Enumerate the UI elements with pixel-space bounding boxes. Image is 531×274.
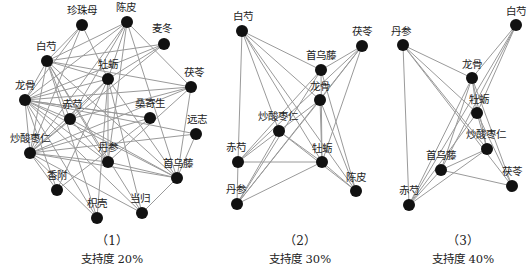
node-dot xyxy=(51,184,63,196)
edge xyxy=(472,25,516,78)
node-label: 桑寄生 xyxy=(135,97,165,109)
label-layer: 白芍丹参龙骨牡蛎炒酸枣仁首乌藤茯苓赤芍 xyxy=(391,5,526,196)
panel-caption-index: （3） xyxy=(447,234,479,248)
node-dot xyxy=(236,25,248,37)
node-label: 牡蛎 xyxy=(469,93,490,105)
node-dot xyxy=(471,107,483,119)
edge-layer xyxy=(403,25,516,205)
edge xyxy=(30,153,108,162)
panel-caption-index: （2） xyxy=(284,234,316,248)
node-dot xyxy=(171,172,183,184)
node-label: 枳壳 xyxy=(87,197,108,209)
node-label: 远志 xyxy=(187,113,207,125)
node-label: 首乌藤 xyxy=(306,49,337,61)
node-label: 赤芍 xyxy=(62,98,82,110)
node-label: 赤芍 xyxy=(226,141,246,153)
node-dot xyxy=(466,72,478,84)
node-label: 龙骨 xyxy=(15,79,35,91)
network-panel-support-20: 珍珠母陈皮麦冬白芍牡蛎茯苓龙骨赤芍桑寄生远志炒酸枣仁丹参首乌藤香附枳壳当归 （1… xyxy=(10,1,207,266)
node-dot xyxy=(91,212,103,224)
node-dot xyxy=(506,180,518,192)
node-label: 首乌藤 xyxy=(426,149,457,161)
node-label: 当归 xyxy=(130,192,150,204)
network-panel-support-30: 白芍茯苓首乌藤龙骨炒酸枣仁赤芍牡蛎丹参陈皮 （2） 支持度 30% xyxy=(226,10,373,266)
panel-caption-support: 支持度 20% xyxy=(81,252,143,266)
node-label: 珍珠母 xyxy=(67,4,97,16)
panel-caption-support: 支持度 30% xyxy=(269,252,331,266)
node-label: 龙骨 xyxy=(310,80,330,92)
node-label: 白芍 xyxy=(36,40,56,52)
node-label: 牡蛎 xyxy=(98,58,119,70)
node-label: 陈皮 xyxy=(116,1,137,13)
edge xyxy=(30,153,142,213)
node-label: 赤芍 xyxy=(399,184,419,196)
panel-caption-index: （1） xyxy=(96,234,128,248)
node-dot xyxy=(397,39,409,51)
node-dot xyxy=(102,73,114,85)
node-dot xyxy=(481,143,493,155)
node-label: 茯苓 xyxy=(352,25,373,37)
node-label: 茯苓 xyxy=(502,165,523,177)
node-label: 丹参 xyxy=(226,183,247,195)
node-dot xyxy=(144,112,156,124)
node-label: 白芍 xyxy=(233,10,253,22)
node-label: 炒酸枣仁 xyxy=(258,110,298,122)
node-dot xyxy=(273,125,285,137)
network-diagram-canvas: 珍珠母陈皮麦冬白芍牡蛎茯苓龙骨赤芍桑寄生远志炒酸枣仁丹参首乌藤香附枳壳当归 （1… xyxy=(0,0,531,274)
node-dot xyxy=(510,19,522,31)
node-dot xyxy=(315,64,327,76)
node-dot xyxy=(64,113,76,125)
edge xyxy=(177,134,196,178)
node-label: 丹参 xyxy=(391,25,412,37)
node-dot xyxy=(41,55,53,67)
node-dot xyxy=(316,156,328,168)
node-dot xyxy=(231,198,243,210)
node-dot xyxy=(24,147,36,159)
node-dot xyxy=(121,16,133,28)
node-dot xyxy=(435,164,447,176)
node-label: 丹参 xyxy=(98,141,119,153)
node-dot xyxy=(190,128,202,140)
node-label: 炒酸枣仁 xyxy=(466,128,506,140)
panel-caption-support: 支持度 40% xyxy=(432,252,494,266)
edge xyxy=(409,25,516,205)
node-dot xyxy=(136,207,148,219)
node-dot xyxy=(19,94,31,106)
node-label: 香附 xyxy=(47,169,68,181)
node-label: 茯苓 xyxy=(184,66,205,78)
node-dot xyxy=(350,185,362,197)
edge xyxy=(403,45,409,205)
edge-layer xyxy=(237,31,362,204)
label-layer: 白芍茯苓首乌藤龙骨炒酸枣仁赤芍牡蛎丹参陈皮 xyxy=(226,10,373,195)
node-label: 首乌藤 xyxy=(163,157,194,169)
node-dot xyxy=(403,199,415,211)
node-dot xyxy=(102,156,114,168)
node-dot xyxy=(314,94,326,106)
node-dot xyxy=(76,19,88,31)
node-dot xyxy=(158,38,170,50)
edge xyxy=(403,45,477,113)
node-dot xyxy=(356,40,368,52)
node-label: 龙骨 xyxy=(462,58,482,70)
node-label: 陈皮 xyxy=(346,171,367,183)
node-label: 白芍 xyxy=(506,5,526,17)
node-dot xyxy=(185,81,197,93)
edge xyxy=(57,118,150,190)
node-label: 牡蛎 xyxy=(312,142,333,154)
edge xyxy=(403,45,512,186)
node-dot xyxy=(232,156,244,168)
node-label: 麦冬 xyxy=(152,22,173,34)
node-label: 炒酸枣仁 xyxy=(10,132,50,144)
network-panel-support-40: 白芍丹参龙骨牡蛎炒酸枣仁首乌藤茯苓赤芍 （3） 支持度 40% xyxy=(391,5,526,266)
